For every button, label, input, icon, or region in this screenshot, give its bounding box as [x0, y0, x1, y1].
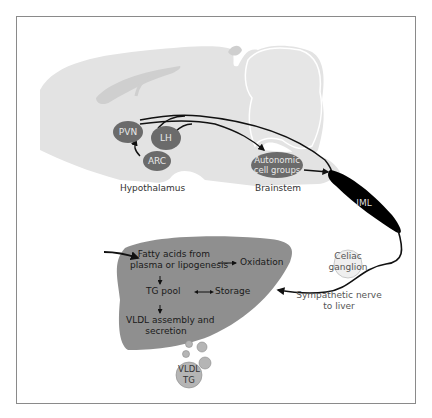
autonomic-label-line1: Autonomic — [252, 155, 302, 165]
lh-label: LH — [152, 133, 180, 143]
vldl-tg-line1: VLDL — [176, 364, 202, 375]
autonomic-label-line2: cell groups — [252, 165, 302, 175]
oxidation-label: Oxidation — [240, 257, 283, 268]
brainstem-label: Brainstem — [255, 183, 301, 194]
arc-label: ARC — [143, 156, 171, 166]
pvn-label: PVN — [114, 127, 142, 137]
celiac-line2: ganglion — [326, 262, 370, 273]
vldl-line1: VLDL assembly and — [126, 315, 206, 326]
vldl-assembly-label: VLDL assembly and secretion — [126, 315, 206, 337]
vldl-tg-label: VLDL TG — [176, 364, 202, 386]
nerve-line1: Sympathetic nerve — [294, 290, 384, 301]
fatty-line2: plasma or lipogenesis — [130, 260, 218, 271]
celiac-ganglion-label: Celiac ganglion — [326, 251, 370, 273]
vldl-tg-line2: TG — [176, 375, 202, 386]
sympathetic-nerve-label: Sympathetic nerve to liver — [294, 290, 384, 312]
storage-label: Storage — [215, 286, 250, 297]
vldl-line2: secretion — [126, 326, 206, 337]
autonomic-label: Autonomic cell groups — [252, 155, 302, 175]
fatty-acids-label: Fatty acids from plasma or lipogenesis — [130, 249, 218, 271]
celiac-line1: Celiac — [326, 251, 370, 262]
hypothalamus-label: Hypothalamus — [120, 183, 185, 194]
iml-label: IML — [352, 198, 376, 208]
fatty-line1: Fatty acids from — [130, 249, 218, 260]
diagram-artwork — [0, 0, 432, 418]
nerve-line2: to liver — [294, 301, 384, 312]
tg-pool-label: TG pool — [146, 286, 181, 297]
